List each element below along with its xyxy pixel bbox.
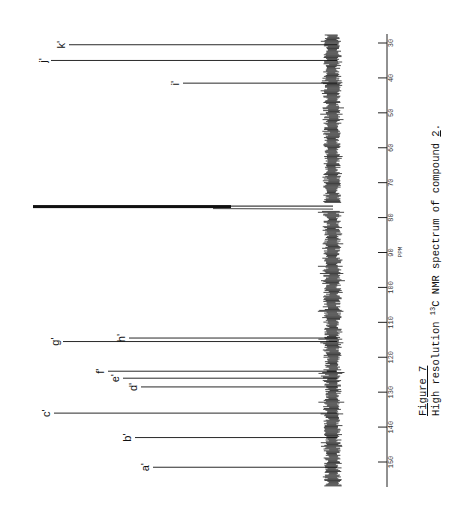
axis-tick-label: 130 (387, 386, 395, 399)
axis-tick-label: 70 (387, 178, 395, 186)
peak-label: b' (121, 433, 133, 441)
figure-title: Figure 7 (417, 124, 430, 416)
axis-tick-label: 90 (387, 248, 395, 256)
axis-tick-label: 150 (387, 456, 395, 469)
figure-description: High resolution 13C NMR spectrum of comp… (430, 124, 443, 416)
axis-tick-label: 110 (387, 316, 395, 329)
peak-label: j' (37, 58, 49, 64)
peak-label: e' (109, 374, 121, 382)
peak-label: k' (55, 41, 67, 49)
peak-label: g' (49, 337, 61, 345)
baseline-noise (318, 35, 345, 486)
axis-tick-label: 40 (387, 74, 395, 82)
peak-labels: k'j'i'h'g'f'e'd'c'b'a' (37, 41, 181, 471)
axis-tick-label: 50 (387, 109, 395, 117)
peak-label: c' (40, 409, 52, 417)
axis-tick-label: 120 (387, 351, 395, 364)
peak-label: a' (139, 463, 151, 471)
peak-label: h' (115, 334, 127, 342)
axis-tick-label: 30 (387, 39, 395, 47)
axis-tick-label: 100 (387, 281, 395, 294)
peak-label: i' (169, 81, 181, 86)
axis-label-ppm: PPM (397, 246, 404, 257)
axis-tick-label: 80 (387, 213, 395, 221)
peak-label: d' (127, 383, 139, 391)
figure-caption: Figure 7 High resolution 13C NMR spectru… (405, 120, 455, 420)
peak-lines (33, 45, 337, 467)
nmr-spectrum-chart: k'j'i'h'g'f'e'd'c'b'a' 30405060708090100… (0, 0, 467, 514)
axis-tick-label: 140 (387, 421, 395, 434)
axis-tick-label: 60 (387, 144, 395, 152)
peak-label: f' (94, 369, 106, 374)
